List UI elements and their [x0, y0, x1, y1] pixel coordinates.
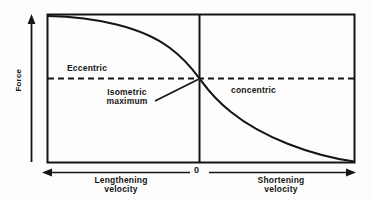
isometric-maximum-label: Isometric maximum — [98, 88, 156, 106]
eccentric-region-label: Eccentric — [67, 64, 107, 73]
zero-velocity-label: 0 — [194, 166, 199, 175]
y-axis-label: Force — [15, 58, 23, 102]
concentric-region-label: concentric — [231, 86, 276, 95]
force-velocity-curve-figure: Force Eccentric concentric Isometric max… — [0, 0, 372, 200]
force-velocity-curve — [48, 16, 354, 162]
chart-canvas — [0, 0, 372, 200]
isometric-maximum-leader-line — [155, 80, 198, 102]
plot-frame — [48, 15, 355, 163]
lengthening-velocity-label-line2: velocity — [62, 185, 180, 194]
force-axis-arrow — [28, 14, 36, 162]
shortening-velocity-label-line2: velocity — [222, 185, 340, 194]
shortening-velocity-label: Shortening velocity — [222, 176, 340, 194]
lengthening-velocity-label: Lengthening velocity — [62, 176, 180, 194]
isometric-maximum-label-line2: maximum — [98, 97, 156, 106]
